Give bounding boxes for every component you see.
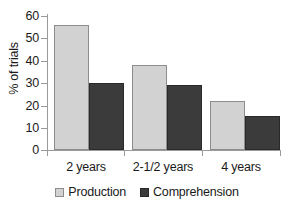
x-axis-tick-0: [47, 151, 48, 156]
legend-label-comprehension: Comprehension: [153, 186, 239, 199]
bar-group-2-years: [54, 16, 124, 150]
x-axis-line: [47, 150, 281, 151]
y-axis-tick-label-50: 50: [0, 32, 39, 44]
legend-label-production: Production: [68, 186, 126, 199]
bar-chart-figure: % of trials 60 50 40 30 20 10 0 2 yea: [0, 0, 294, 211]
y-axis-tick-label-60: 60: [0, 10, 39, 22]
chart-legend: Production Comprehension: [0, 186, 294, 199]
bar-group-4-years: [210, 16, 280, 150]
y-axis-tick-label-20: 20: [0, 100, 39, 112]
legend-entry-production: Production: [55, 186, 126, 199]
light-gray-square-icon: [55, 188, 64, 197]
y-axis-tick-label-10: 10: [0, 122, 39, 134]
bar-comprehension-2-1-2-years: [167, 85, 202, 150]
x-axis-tick-3: [280, 151, 281, 156]
y-axis-tick-label-40: 40: [0, 55, 39, 67]
x-axis-label-4-years: 4 years: [186, 160, 294, 174]
y-axis-tick-label-0: 0: [0, 144, 39, 156]
dark-gray-square-icon: [140, 188, 149, 197]
bar-group-2-1-2-years: [132, 16, 202, 150]
bar-production-2-years: [54, 25, 89, 150]
bar-comprehension-2-years: [89, 83, 124, 150]
plot-area: [47, 16, 280, 150]
x-axis-tick-2: [202, 151, 203, 156]
x-axis-tick-1: [124, 151, 125, 156]
bar-production-2-1-2-years: [132, 65, 167, 150]
bar-comprehension-4-years: [245, 116, 280, 150]
legend-entry-comprehension: Comprehension: [140, 186, 239, 199]
y-axis-tick-label-30: 30: [0, 77, 39, 89]
bar-production-4-years: [210, 101, 245, 150]
